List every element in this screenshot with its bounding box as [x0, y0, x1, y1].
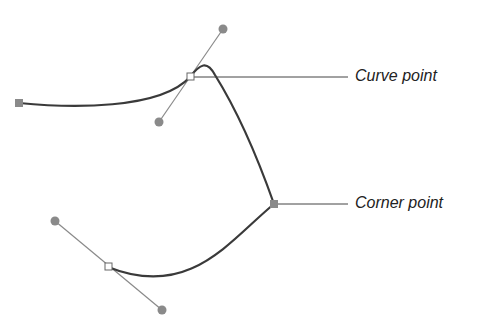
start-anchor-icon[interactable] — [15, 99, 23, 107]
bezier-diagram — [0, 0, 478, 324]
curve-point-label: Curve point — [355, 67, 437, 85]
handle-point-icon[interactable] — [51, 217, 60, 226]
corner-point-label: Corner point — [355, 194, 443, 212]
handle-point-icon[interactable] — [158, 306, 167, 315]
bezier-path — [19, 65, 274, 276]
corner-anchor-icon[interactable] — [270, 200, 278, 208]
lower-curve-anchor-icon[interactable] — [105, 263, 112, 270]
curve-anchor-icon[interactable] — [187, 73, 194, 80]
handle-point-icon[interactable] — [219, 25, 228, 34]
handle-point-icon[interactable] — [155, 118, 164, 127]
